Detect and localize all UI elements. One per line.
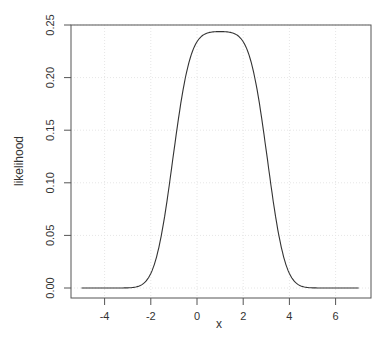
x-tick-label: 2 — [240, 310, 246, 322]
x-axis-label: x — [216, 317, 222, 331]
y-axis: 0.000.050.100.150.200.25 — [44, 14, 71, 298]
y-tick-label: 0.10 — [44, 172, 56, 193]
y-tick-label: 0.20 — [44, 67, 56, 88]
grid-lines — [71, 25, 371, 298]
plot-frame — [71, 25, 371, 298]
x-tick-label: -2 — [146, 310, 156, 322]
likelihood-curve — [82, 32, 359, 288]
y-tick-label: 0.00 — [44, 277, 56, 298]
x-tick-label: 6 — [333, 310, 339, 322]
y-tick-label: 0.05 — [44, 225, 56, 246]
y-tick-label: 0.15 — [44, 119, 56, 140]
x-tick-label: 4 — [286, 310, 292, 322]
x-tick-label: -4 — [100, 310, 110, 322]
x-tick-label: 0 — [194, 310, 200, 322]
y-axis-label: likelihood — [12, 136, 26, 186]
chart: 0.000.050.100.150.200.25 -4-20246 x like… — [0, 0, 389, 348]
y-tick-label: 0.25 — [44, 14, 56, 35]
